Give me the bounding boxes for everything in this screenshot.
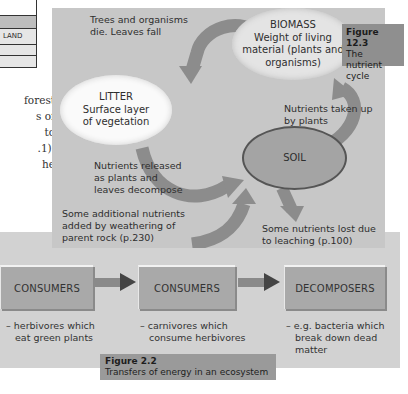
flow-line: Nutrients released [94,160,183,172]
biomass-node: BIOMASS Weight of living material (plant… [232,8,354,80]
caption-title-line: The nutrient [346,49,400,71]
flow-label-weathering: Some additional nutrients added by weath… [62,208,185,244]
node-line: Weight of living [254,32,332,45]
flow-label-taken-up: Nutrients taken up by plants [284,103,373,127]
flow-line: added by weathering of [62,220,185,232]
node-title: BIOMASS [270,19,316,32]
flow-line: Trees and organisms [90,14,188,26]
consumers-herbivores-box: CONSUMERS [0,265,93,309]
body-text-line: s of [0,108,55,124]
flow-line: to leaching (p.100) [262,235,376,247]
decomposers-box: DECOMPOSERS [284,265,385,309]
desc-line: consume herbivores [140,332,246,344]
box-label: CONSUMERS [154,283,220,294]
soil-node: SOIL [242,126,347,190]
body-text-line: .1). [0,140,55,156]
flow-line: die. Leaves fall [90,26,188,38]
node-title: SOIL [283,152,306,165]
figure-2-2-caption: Figure 2.2 Transfers of energy in an eco… [100,354,276,380]
body-text-line: he [0,156,55,172]
desc-line: – herbivores which [6,320,95,332]
table-row [0,0,36,16]
caption-title: Transfers of energy in an ecosystem [105,367,268,377]
figure-12-3-caption: Figure 12.3 The nutrient cycle [342,24,404,66]
flow-line: Some additional nutrients [62,208,185,220]
table-row [0,16,36,29]
body-text-fragment: forest s of to .1). he [0,92,55,172]
box-label: CONSUMERS [14,283,80,294]
carnivores-description: – carnivores which consume herbivores [140,320,246,344]
flow-line: parent rock (p.230) [62,232,185,244]
flow-label-leaves-fall: Trees and organisms die. Leaves fall [90,14,188,38]
desc-line: break down dead [286,332,384,344]
desc-line: – carnivores which [140,320,246,332]
consumers-carnivores-box: CONSUMERS [138,265,235,309]
node-line: organisms) [265,57,321,70]
flow-line: leaves decompose [94,184,183,196]
decomposers-description: – e.g. bacteria which break down dead ma… [286,320,384,356]
table-fragment: LAND [0,0,37,68]
arrow-right-icon [238,273,280,291]
arrow-right-icon [94,273,136,291]
desc-line: – e.g. bacteria which [286,320,384,332]
node-line: of vegetation [83,116,150,129]
table-row [0,56,36,68]
herbivores-description: – herbivores which eat green plants [6,320,95,344]
desc-line: matter [286,344,384,356]
table-row [0,45,36,56]
desc-line: eat green plants [6,332,95,344]
flow-line: by plants [284,115,373,127]
flow-label-decompose: Nutrients released as plants and leaves … [94,160,183,196]
body-text-line: forest [0,92,55,108]
node-line: Surface layer [83,104,149,117]
table-row: LAND [0,29,36,45]
body-text-line: to [0,124,55,140]
node-line: material (plants and [242,44,344,57]
flow-line: Some nutrients lost due [262,223,376,235]
flow-line: Nutrients taken up [284,103,373,115]
flow-line: as plants and [94,172,183,184]
nutrient-cycle-panel: BIOMASS Weight of living material (plant… [52,8,385,248]
caption-number: Figure 12.3 [346,27,400,49]
litter-node: LITTER Surface layer of vegetation [60,75,172,145]
flow-label-leaching: Some nutrients lost due to leaching (p.1… [262,223,376,247]
caption-title-line: cycle [346,71,400,82]
box-label: DECOMPOSERS [295,283,375,294]
caption-number: Figure 2.2 [105,356,271,367]
node-title: LITTER [99,91,133,104]
arrow-rock-to-soil-icon [192,204,244,244]
